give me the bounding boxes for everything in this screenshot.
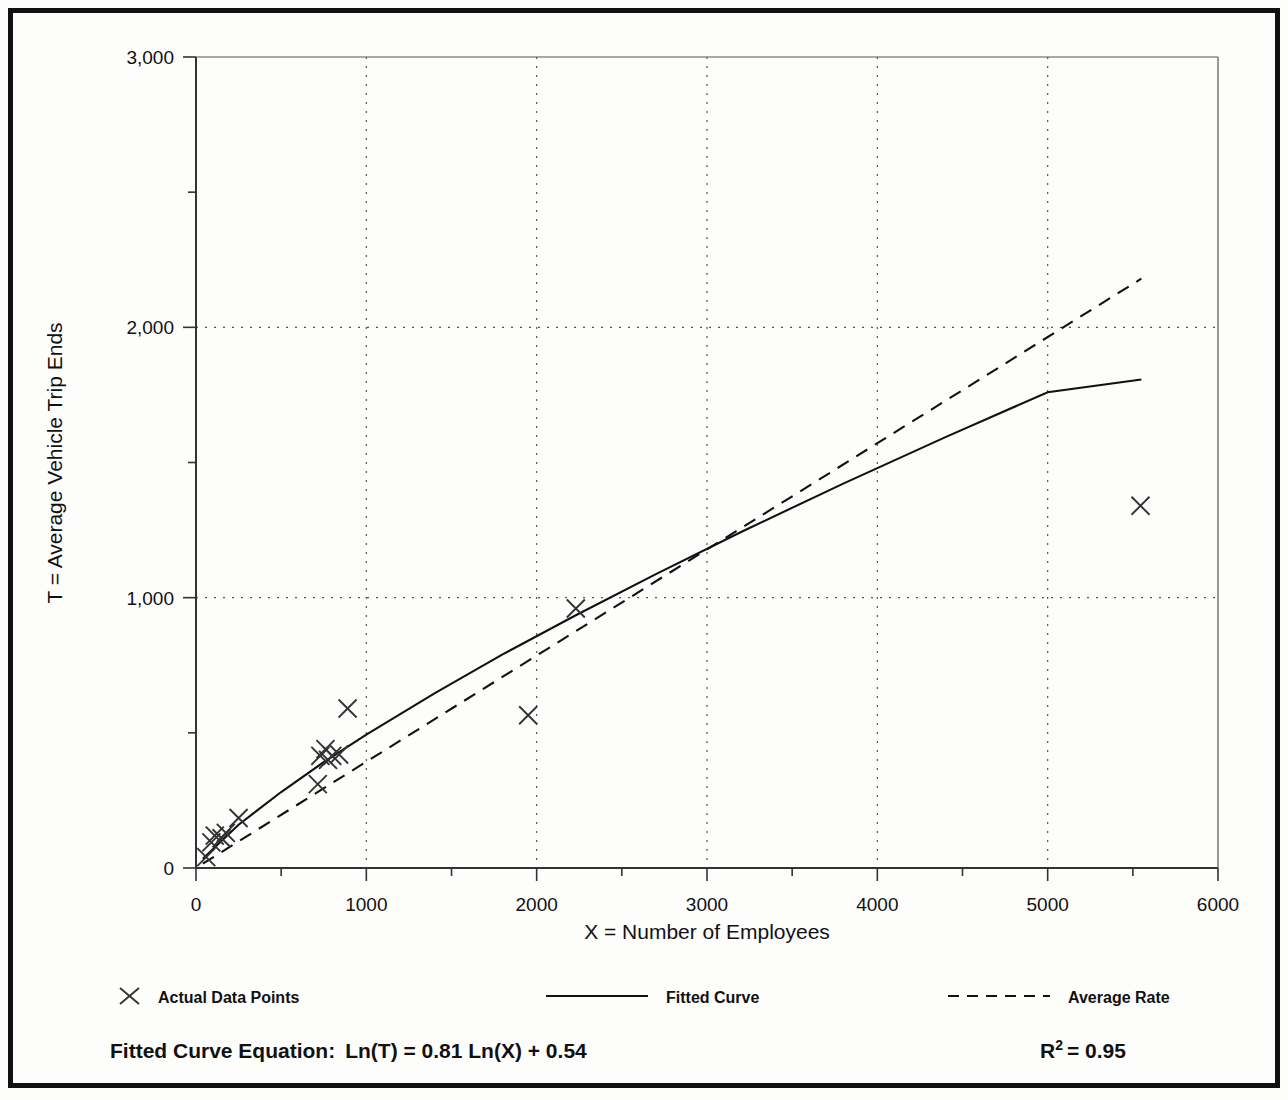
x-axis-title: X = Number of Employees [584,920,830,943]
x-tick-label: 1000 [345,894,387,915]
legend-item-actual-data-points[interactable]: Actual Data Points [120,988,299,1006]
x-tick-label: 6000 [1197,894,1239,915]
x-tick-label: 0 [191,894,202,915]
x-tick-label: 2000 [516,894,558,915]
chart-page: 01,0002,0003,000 01000200030004000500060… [0,0,1288,1100]
y-tick-label: 1,000 [126,588,174,609]
legend-item-average-rate[interactable]: Average Rate [948,989,1170,1006]
x-tick-label: 4000 [856,894,898,915]
y-tick-label: 0 [163,858,174,879]
legend: Actual Data Points Fitted Curve Average … [120,988,1170,1006]
r-squared-value: R2= 0.95 [1040,1037,1126,1062]
footer-equation-block: Fitted Curve Equation:Ln(T) = 0.81 Ln(X)… [110,1037,1126,1062]
x-tick-label: 3000 [686,894,728,915]
x-marker-icon [120,988,139,1004]
legend-label-actual-data-points: Actual Data Points [158,989,299,1006]
x-tick-label: 5000 [1027,894,1069,915]
scatter-chart: 01,0002,0003,000 01000200030004000500060… [0,0,1288,1100]
legend-label-fitted-curve: Fitted Curve [666,989,759,1006]
y-tick-label: 3,000 [126,47,174,68]
y-axis-title: T = Average Vehicle Trip Ends [43,322,66,603]
y-tick-label: 2,000 [126,317,174,338]
y-tick-labels: 01,0002,0003,000 [126,47,174,879]
legend-label-average-rate: Average Rate [1068,989,1170,1006]
fitted-equation-label: Fitted Curve Equation:Ln(T) = 0.81 Ln(X)… [110,1039,587,1062]
x-tick-labels: 0100020003000400050006000 [191,894,1239,915]
legend-item-fitted-curve[interactable]: Fitted Curve [546,989,759,1006]
